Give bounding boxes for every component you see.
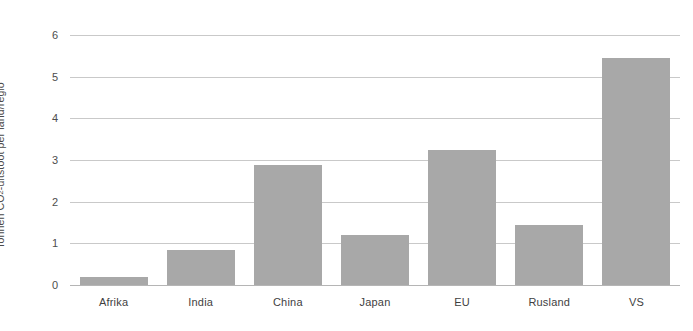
bar-chart: Tonnen CO2-uitstoot per land/regio 01234…: [0, 0, 693, 331]
x-label-afrika: Afrika: [99, 296, 128, 308]
y-tick-label: 5: [52, 71, 58, 82]
x-label-china: China: [273, 296, 303, 308]
y-tick-label: 2: [52, 196, 58, 207]
y-tick-label: 4: [52, 113, 58, 124]
y-tick-label: 3: [52, 155, 58, 166]
y-tick-label: 0: [52, 280, 58, 291]
plot-area: 0123456: [70, 35, 680, 285]
x-label-india: India: [188, 296, 213, 308]
bar-afrika[interactable]: [80, 277, 148, 285]
bar-india[interactable]: [167, 250, 235, 285]
bars: [70, 35, 680, 285]
y-axis-title: Tonnen CO2-uitstoot per land/regio: [0, 0, 28, 331]
x-label-eu: EU: [454, 296, 470, 308]
x-axis-labels: AfrikaIndiaChinaJapanEURuslandVS: [70, 296, 680, 316]
x-label-japan: Japan: [360, 296, 391, 308]
bar-china[interactable]: [254, 165, 322, 285]
bar-eu[interactable]: [428, 150, 496, 285]
y-axis-title-after: -uitstoot per land/regio: [0, 82, 6, 190]
gridline-0: [70, 285, 680, 286]
bar-japan[interactable]: [341, 235, 409, 285]
y-tick-label: 6: [52, 30, 58, 41]
x-label-vs: VS: [629, 296, 644, 308]
y-axis-title-before: Tonnen CO: [0, 194, 6, 248]
y-tick-label: 1: [52, 238, 58, 249]
y-axis-title-subscript: 2: [0, 190, 5, 194]
bar-rusland[interactable]: [515, 225, 583, 285]
bar-vs[interactable]: [602, 58, 670, 285]
x-label-rusland: Rusland: [528, 296, 570, 308]
